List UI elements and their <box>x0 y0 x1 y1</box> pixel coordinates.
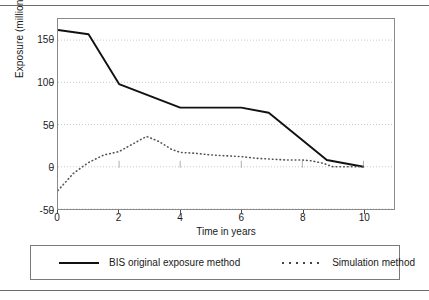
chart-legend: BIS original exposure method Simulation … <box>30 245 400 280</box>
x-tick-mark <box>241 210 242 214</box>
x-axis-label: Time in years <box>57 226 395 237</box>
legend-label-bis: BIS original exposure method <box>109 257 240 268</box>
plot-area <box>57 18 395 210</box>
series-line-1 <box>58 30 363 167</box>
x-tick-mark <box>303 210 304 214</box>
legend-item-bis: BIS original exposure method <box>59 257 240 268</box>
legend-item-simulation: Simulation method <box>282 257 415 268</box>
dotted-line-swatch-icon <box>282 262 322 264</box>
x-tick-mark <box>364 210 365 214</box>
exposure-line-chart-figure: Exposure (million $ U.S.) -50050100150 0… <box>0 0 429 300</box>
series-line-2 <box>58 136 363 190</box>
plot-svg <box>58 19 394 209</box>
x-tick-mark <box>118 210 119 214</box>
x-tick-mark <box>57 210 58 214</box>
x-tick-mark <box>180 210 181 214</box>
legend-row: BIS original exposure method Simulation … <box>31 246 401 279</box>
solid-line-swatch-icon <box>59 262 99 264</box>
legend-label-simulation: Simulation method <box>332 257 415 268</box>
